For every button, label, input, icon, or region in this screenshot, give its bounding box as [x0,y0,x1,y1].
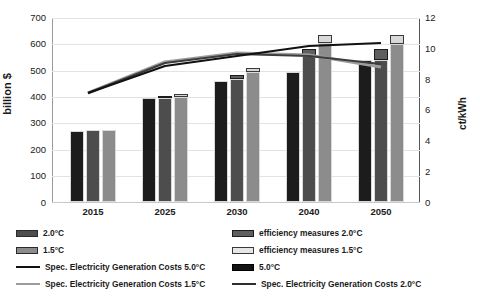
chart-container: billion $ ct/kWh 700 600 500 400 300 200… [0,0,480,303]
x-tick-2040: 2040 [274,206,344,217]
y-axis-right-title: ct/kWh [457,97,468,130]
y-tick-left-300: 300 [12,118,46,128]
legend-label-15C: 1.5°C [43,245,64,255]
y-tick-left-200: 200 [12,145,46,155]
y-tick-right-0: 0 [425,198,449,208]
line-spec-costs-2C [88,54,381,93]
legend-swatch-eff-15C [232,247,254,254]
legend-label-2C: 2.0°C [43,228,64,238]
y-tick-left-500: 500 [12,66,46,76]
y-tick-left-600: 600 [12,39,46,49]
y-tick-left-700: 700 [12,13,46,23]
legend-item-eff-15C: efficiency measures 1.5°C [232,245,362,255]
y-tick-right-6: 6 [425,105,449,115]
legend-swatch-line-2C [232,283,256,285]
x-tick-2025: 2025 [130,206,200,217]
legend-swatch-eff-2C [232,230,254,237]
chart-legend: 2.0°C efficiency measures 2.0°C 1.5°C ef… [16,228,468,294]
y-tick-right-12: 12 [425,13,449,23]
y-tick-left-400: 400 [12,92,46,102]
legend-label-eff-2C: efficiency measures 2.0°C [259,228,362,238]
legend-item-spec-costs-15C: Spec. Electricity Generation Costs 1.5°C [16,279,205,289]
legend-swatch-line-15C [16,283,40,285]
y-tick-right-8: 8 [425,75,449,85]
x-tick-2015: 2015 [58,206,128,217]
gridline-0 [52,202,420,203]
legend-swatch-15C [16,247,38,254]
y-axis-left-title: billion $ [1,73,13,115]
y-tick-left-0: 0 [12,198,46,208]
legend-swatch-5C [232,264,254,271]
legend-swatch-line-5C [16,266,40,268]
legend-label-5C: 5.0°C [259,262,280,272]
line-series-overlay [52,18,420,202]
legend-item-eff-2C: efficiency measures 2.0°C [232,228,362,238]
legend-item-spec-costs-5C: Spec. Electricity Generation Costs 5.0°C [16,262,205,272]
y-tick-right-2: 2 [425,167,449,177]
legend-label-spec-costs-5C: Spec. Electricity Generation Costs 5.0°C [45,262,205,272]
x-tick-2050: 2050 [346,206,416,217]
y-tick-left-100: 100 [12,171,46,181]
plot-area [52,18,420,202]
y-tick-right-10: 10 [425,44,449,54]
legend-swatch-2C [16,230,38,237]
legend-label-spec-costs-15C: Spec. Electricity Generation Costs 1.5°C [45,279,205,289]
y-tick-right-4: 4 [425,136,449,146]
legend-item-5C: 5.0°C [232,262,280,272]
legend-item-2C: 2.0°C [16,228,64,238]
legend-item-15C: 1.5°C [16,245,64,255]
x-tick-2030: 2030 [202,206,272,217]
legend-item-spec-costs-2C: Spec. Electricity Generation Costs 2.0°C [232,279,421,289]
line-spec-costs-5C [88,43,381,93]
legend-label-spec-costs-2C: Spec. Electricity Generation Costs 2.0°C [261,279,421,289]
legend-label-eff-15C: efficiency measures 1.5°C [259,245,362,255]
